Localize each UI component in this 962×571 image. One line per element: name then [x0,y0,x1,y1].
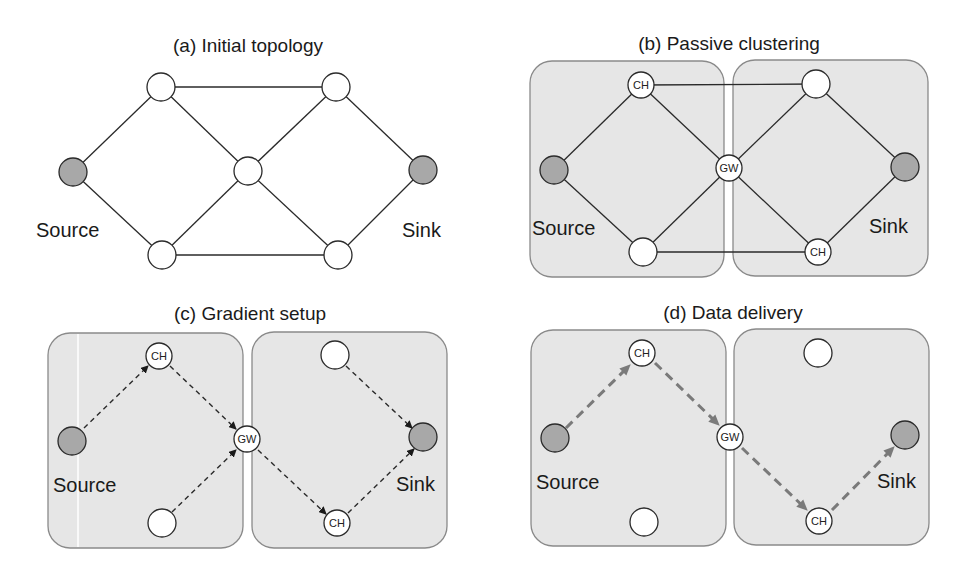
sink-node [409,156,437,184]
relay-node [147,73,175,101]
source-node [58,427,86,455]
sink-label: Sink [869,215,909,237]
panel-d: (d) Data delivery CH GW CH Source Sink [531,302,929,546]
panel-c-title: (c) Gradient setup [174,303,326,324]
sink-label: Sink [396,473,436,495]
relay-node [321,341,349,369]
sink-label: Sink [877,470,917,492]
source-node [540,156,568,184]
relay-node [324,241,352,269]
cluster-head-label: CH [633,79,649,91]
cluster-head-label: CH [634,347,650,359]
cluster-head-label: CH [810,246,826,258]
gateway-label: GW [238,433,258,445]
source-node [59,158,87,186]
panel-a: (a) Initial topology Source Sink [36,35,442,269]
source-label: Source [36,219,99,241]
relay-node [322,73,350,101]
relay-node [234,157,262,185]
cluster-head-label: CH [811,515,827,527]
source-label: Source [532,217,595,239]
relay-node [630,508,658,536]
gateway-label: GW [721,431,741,443]
source-node [541,424,569,452]
relay-node [629,238,657,266]
source-label: Source [53,474,116,496]
relay-node [804,339,832,367]
cluster-head-label: CH [329,517,345,529]
cluster-head-label: CH [151,350,167,362]
source-label: Source [536,471,599,493]
gateway-label: GW [720,162,740,174]
panel-c: (c) Gradient setup CH GW CH Source Sink [48,303,447,548]
relay-node [148,241,176,269]
relay-node [148,509,176,537]
sink-node [891,421,919,449]
sink-label: Sink [402,219,442,241]
panel-b: (b) Passive clustering CH GW CH Source S… [530,33,928,277]
sink-node [891,153,919,181]
diagram-canvas: (a) Initial topology Source Sink (b) Pas… [0,0,962,571]
relay-node [802,70,830,98]
sink-node [409,423,437,451]
panel-a-title: (a) Initial topology [173,35,323,56]
panel-d-title: (d) Data delivery [663,302,803,323]
panel-b-title: (b) Passive clustering [638,33,820,54]
